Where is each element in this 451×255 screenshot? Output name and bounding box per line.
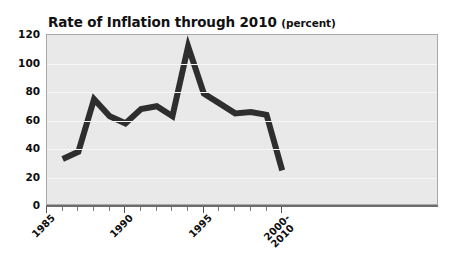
y-tick-label-60: 60 <box>25 114 40 126</box>
y-tick-label-120: 120 <box>18 28 40 40</box>
x-axis-line <box>46 205 438 207</box>
x-tick-label-1995: 1995 <box>187 213 214 240</box>
x-tick-1993 <box>171 207 172 211</box>
chart-title-text: Rate of Inflation through 2010 <box>48 14 277 30</box>
y-axis: 020406080100120 <box>0 0 46 255</box>
chart-title: Rate of Inflation through 2010 (percent) <box>48 14 336 30</box>
chart-title-unit: (percent) <box>281 17 335 29</box>
x-tick-1994 <box>187 207 188 211</box>
y-tick-label-80: 80 <box>25 85 40 97</box>
x-tick-1996 <box>218 207 219 211</box>
x-tick-1992 <box>156 207 157 211</box>
x-tick-1988 <box>93 207 94 211</box>
y-tick-label-0: 0 <box>33 199 40 211</box>
y-tick-label-20: 20 <box>25 171 40 183</box>
x-tick-1990 <box>124 207 125 213</box>
x-tick-1997 <box>234 207 235 211</box>
x-tick-1999 <box>266 207 267 211</box>
inflation-line-path <box>63 46 283 170</box>
gridline-80 <box>47 92 437 93</box>
x-tick-1987 <box>77 207 78 211</box>
x-tick-1995 <box>203 207 204 213</box>
gridline-100 <box>47 64 437 65</box>
x-tick-1991 <box>140 207 141 211</box>
x-tick-2000 <box>281 207 282 213</box>
gridline-60 <box>47 121 437 122</box>
inflation-line-chart: Rate of Inflation through 2010 (percent)… <box>0 0 451 255</box>
y-tick-label-100: 100 <box>18 57 40 69</box>
x-tick-1989 <box>109 207 110 211</box>
x-tick-label-1990: 1990 <box>109 213 136 240</box>
plot-area <box>46 34 438 205</box>
x-tick-1998 <box>250 207 251 211</box>
gridline-40 <box>47 149 437 150</box>
x-tick-1986 <box>62 207 63 211</box>
y-tick-label-40: 40 <box>25 142 40 154</box>
x-tick-1985 <box>46 207 47 213</box>
x-tick-label-2000: 2000-2010 <box>263 213 300 250</box>
gridline-20 <box>47 178 437 179</box>
